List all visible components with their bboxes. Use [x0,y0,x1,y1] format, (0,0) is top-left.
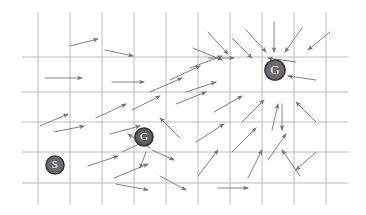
grid-nodes: SGG [46,60,285,174]
policy-arrow [232,128,256,152]
policy-arrows [40,22,330,190]
policy-arrow [70,39,98,46]
policy-arrow [296,102,316,122]
vector-field-canvas: SGG [0,0,366,215]
policy-arrow [196,124,224,142]
policy-arrow [54,126,84,132]
policy-arrow [96,104,126,118]
goal-node-mid: G [135,128,153,146]
policy-arrow [105,50,133,56]
policy-arrow [308,32,330,50]
policy-arrow [285,28,302,52]
policy-arrow [152,150,174,160]
policy-arrow [186,82,216,92]
node-label: S [52,158,58,170]
policy-field-figure: SGG [0,0,366,215]
policy-arrow [248,150,262,178]
policy-arrow [296,152,316,170]
policy-arrow [40,114,68,126]
goal-node-main: G [265,60,285,80]
policy-arrow [116,184,148,190]
policy-arrow [132,96,160,110]
policy-arrow [288,76,316,80]
start-node: S [46,156,64,174]
policy-arrow [268,134,286,160]
policy-arrow [272,104,278,130]
node-label: G [270,63,279,77]
policy-arrow [246,30,266,52]
policy-arrow [170,66,200,80]
grid-lines [22,12,348,205]
policy-arrow [176,92,206,104]
node-label: G [140,130,148,142]
policy-arrow [114,164,148,178]
policy-arrow [242,100,264,122]
policy-arrow [198,150,218,176]
policy-arrow [214,96,242,112]
policy-arrow [208,32,228,54]
policy-arrow [232,38,252,58]
policy-arrow [282,150,300,176]
policy-arrow [160,118,180,138]
policy-arrow [88,156,118,166]
